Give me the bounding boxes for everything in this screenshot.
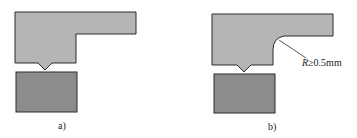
caption-a: a) xyxy=(58,120,66,132)
radius-symbol: R xyxy=(301,57,308,68)
leader-line xyxy=(279,40,306,58)
caption-b: b) xyxy=(268,121,276,133)
lower-block xyxy=(214,74,275,113)
upper-part-sharp-corner xyxy=(15,12,136,70)
lower-block xyxy=(16,72,77,112)
radius-annotation: R≥0.5mm xyxy=(301,57,342,68)
radius-value: ≥0.5mm xyxy=(308,57,342,68)
panel-a: a) xyxy=(15,12,136,132)
diagram: a) R≥0.5mm b) xyxy=(0,0,357,138)
panel-b: R≥0.5mm b) xyxy=(212,14,342,133)
